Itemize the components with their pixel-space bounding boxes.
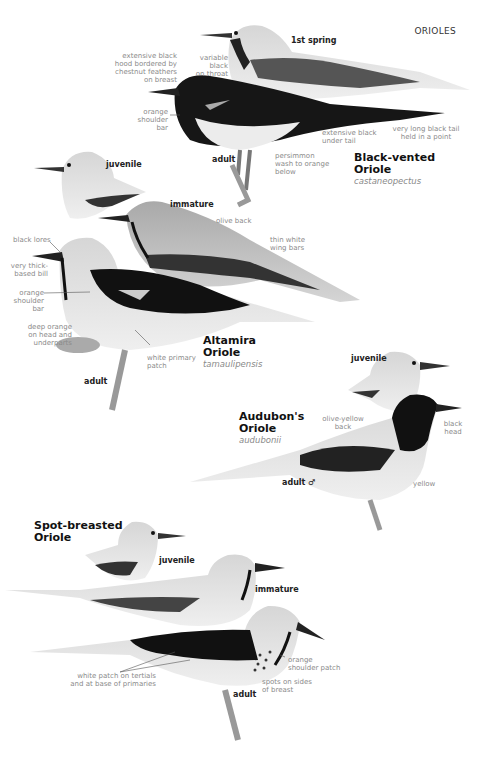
scientific-name: tamaulipensis: [203, 359, 262, 370]
note-line: back: [318, 423, 368, 431]
note-line: very thick-: [4, 262, 48, 270]
note-line: on breast: [93, 76, 177, 84]
note-white-patch-tertials: white patch on tertials and at base of p…: [60, 672, 156, 688]
note-orange-shoulder-bar: orange shoulder bar: [130, 108, 168, 132]
note-line: based bill: [4, 270, 48, 278]
note-line: variable black: [180, 54, 228, 70]
label-audubons-adult-male: adult ♂: [282, 478, 315, 487]
label-black-vented-adult: adult: [212, 155, 235, 164]
note-white-primary-patch: white primary patch: [147, 354, 207, 370]
scientific-name: audubonii: [239, 435, 304, 446]
note-line: wing bars: [270, 244, 320, 252]
label-spot-breasted-adult: adult: [233, 690, 256, 699]
species-name-line2: Oriole: [239, 423, 304, 435]
note-line: orange: [130, 108, 168, 116]
note-line: white patch on tertials: [60, 672, 156, 680]
note-line: persimmon: [275, 152, 345, 160]
note-line: orange: [4, 289, 44, 297]
note-line: olive-yellow: [318, 415, 368, 423]
note-deep-orange-head: deep orange on head and underparts: [10, 323, 72, 347]
note-spots-sides-breast: spots on sides of breast: [262, 678, 322, 694]
note-line: shoulder patch: [288, 664, 358, 672]
species-name-line2: Oriole: [203, 347, 262, 359]
note-black-lores: black lores: [13, 236, 51, 244]
note-line: white primary: [147, 354, 207, 362]
note-line: black: [438, 420, 468, 428]
note-persimmon-wash: persimmon wash to orange below: [275, 152, 345, 176]
species-title-black-vented-oriole: Black-vented Oriole castaneopectus: [354, 152, 435, 187]
note-line: shoulder: [130, 116, 168, 124]
note-line: wash to orange: [275, 160, 345, 168]
note-line: hood bordered by: [93, 60, 177, 68]
label-spot-breasted-immature: immature: [255, 585, 299, 594]
label-spot-breasted-juvenile: juvenile: [159, 556, 195, 565]
note-olive-yellow-back: olive-yellow back: [318, 415, 368, 431]
species-title-spot-breasted-oriole: Spot-breasted Oriole: [34, 520, 123, 544]
note-orange-shoulder-patch: orange shoulder patch: [288, 656, 358, 672]
note-altamira-orange-shoulder-bar: orange shoulder bar: [4, 289, 44, 313]
note-line: on head and: [10, 331, 72, 339]
note-line: extensive black: [93, 52, 177, 60]
note-line: head: [438, 428, 468, 436]
note-line: and at base of primaries: [60, 680, 156, 688]
note-variable-black-throat: variable black on throat: [180, 54, 228, 78]
note-line: underparts: [10, 339, 72, 347]
label-altamira-adult: adult: [84, 377, 107, 386]
note-olive-back: olive back: [216, 217, 251, 225]
note-line: thin white: [270, 236, 320, 244]
label-1st-spring: 1st spring: [291, 36, 337, 45]
note-line: deep orange: [10, 323, 72, 331]
note-line: chestnut feathers: [93, 68, 177, 76]
label-altamira-immature: immature: [170, 200, 214, 209]
note-thick-based-bill: very thick- based bill: [4, 262, 48, 278]
species-title-altamira-oriole: Altamira Oriole tamaulipensis: [203, 335, 262, 370]
note-thin-white-wing-bars: thin white wing bars: [270, 236, 320, 252]
illustrations: [0, 0, 486, 765]
note-line: below: [275, 168, 345, 176]
note-line: patch: [147, 362, 207, 370]
note-line: on throat: [180, 70, 228, 78]
scientific-name: castaneopectus: [354, 176, 435, 187]
note-line: orange: [288, 656, 358, 664]
note-long-black-tail: very long black tail held in a point: [382, 125, 470, 141]
note-line: bar: [130, 124, 168, 132]
note-yellow: yellow: [413, 480, 435, 488]
page-header: ORIOLES: [414, 26, 456, 36]
note-line: very long black tail: [382, 125, 470, 133]
label-altamira-juvenile: juvenile: [106, 160, 142, 169]
note-line: held in a point: [382, 133, 470, 141]
note-black-hood: extensive black hood bordered by chestnu…: [93, 52, 177, 84]
note-black-head: black head: [438, 420, 468, 436]
note-line: spots on sides: [262, 678, 322, 686]
species-title-audubons-oriole: Audubon's Oriole audubonii: [239, 411, 304, 446]
note-line: of breast: [262, 686, 322, 694]
species-name-line2: Oriole: [34, 532, 123, 544]
note-line: bar: [4, 305, 44, 313]
species-name-line2: Oriole: [354, 164, 435, 176]
label-audubons-juvenile: juvenile: [351, 354, 387, 363]
note-line: shoulder: [4, 297, 44, 305]
